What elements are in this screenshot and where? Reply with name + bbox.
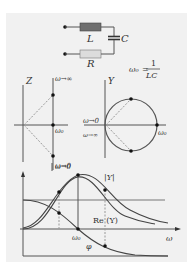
label-omega0: ω₀ <box>72 234 81 242</box>
inductor-icon <box>80 23 101 31</box>
x-arrow-icon <box>175 227 181 231</box>
label-re-y: Re (Y) <box>93 216 118 225</box>
label-omega-to-zero: ω→0 <box>55 163 72 171</box>
z-label-mid: ω₀ <box>55 127 64 135</box>
z-axis-label: Z <box>25 76 33 86</box>
admittance-plot: Y ω→0 ω→∞ ω₀ <box>83 76 167 158</box>
formula-denominator: LC <box>145 71 157 80</box>
z-label-top: ω→∞ <box>55 75 73 83</box>
re-y-curve <box>23 177 155 229</box>
y-point-bottom <box>129 149 133 153</box>
impedance-plot: Z ω→∞ ω₀ ω→0 <box>14 75 73 170</box>
y-point-top <box>129 97 133 101</box>
y-arrow-icon <box>21 171 25 177</box>
z-point-high <box>51 93 55 97</box>
resonance-formula: ω₀ = 1 LC <box>129 59 160 80</box>
frequency-plot: ω→0 |Y| Re (Y) ω₀ φ ω <box>20 163 181 256</box>
z-point-low <box>51 154 55 158</box>
label-abs-y: |Y| <box>104 173 115 182</box>
half-power-dot-right <box>103 188 107 192</box>
circuit: L C R <box>63 23 129 69</box>
resistor-label: R <box>86 58 95 69</box>
label-omega-axis: ω <box>166 234 173 243</box>
inductor-label: L <box>86 33 94 44</box>
formula-numerator: 1 <box>151 59 156 68</box>
y-label-omega-zero: ω→0 <box>83 117 100 125</box>
y-label-omega0: ω₀ <box>158 129 167 137</box>
phi-curve <box>23 200 168 256</box>
resistor-icon <box>80 50 101 58</box>
half-power-dot-left <box>57 190 61 194</box>
peak-dot <box>76 173 80 177</box>
capacitor-label: C <box>121 33 129 44</box>
phi-dot-left <box>57 211 61 215</box>
phi-dot-omega0 <box>76 227 80 231</box>
y-axis-label: Y <box>108 76 115 86</box>
y-label-omega-inf: ω→∞ <box>83 131 98 138</box>
y-point-omega0 <box>155 123 159 127</box>
formula-lhs: ω₀ <box>129 65 140 74</box>
phi-dot-right <box>103 244 107 248</box>
diagram-canvas: L C R ω₀ = 1 LC Z ω→∞ ω₀ ω→0 Y ω→0 <box>0 0 193 273</box>
label-phi: φ <box>86 242 92 251</box>
